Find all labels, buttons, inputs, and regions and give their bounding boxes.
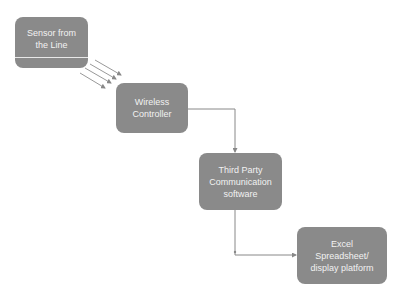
node-label-line: display platform: [310, 262, 373, 274]
node-label-line: Controller: [132, 108, 171, 120]
node-label-line: Sensor from: [27, 27, 76, 39]
node-label-line: Wireless: [132, 96, 171, 108]
connector-wireless-to-third: [188, 109, 235, 152]
node-excel-spreadsheet-display-platform: Excel Spreadsheet/ display platform: [297, 227, 387, 284]
connector-third-to-excel: [235, 210, 296, 255]
node-sensor-from-the-line: Sensor from the Line: [15, 17, 88, 68]
node-label-line: the Line: [27, 39, 76, 51]
node-label-line: software: [209, 188, 272, 200]
node-label-line: Third Party: [209, 164, 272, 176]
node-label-line: Excel: [310, 238, 373, 250]
node-label-line: Spreadsheet/: [310, 250, 373, 262]
node-wireless-controller: Wireless Controller: [116, 83, 188, 133]
node-third-party-communication-software: Third Party Communication software: [199, 153, 282, 210]
divider-line: [15, 57, 88, 58]
node-label-line: Communication: [209, 176, 272, 188]
